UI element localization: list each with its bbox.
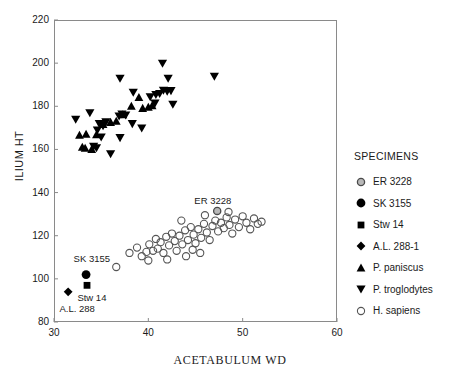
data-point xyxy=(200,220,207,227)
plot-data-layer xyxy=(54,20,337,322)
series-p-paniscus xyxy=(75,93,156,153)
legend-item-label: H. sapiens xyxy=(373,305,420,316)
annotation-label: ER 3228 xyxy=(194,195,231,206)
annotation-label: Stw 14 xyxy=(77,292,106,303)
legend-item-p-paniscus[interactable]: P. paniscus xyxy=(352,257,461,279)
filled-square-icon xyxy=(352,218,370,232)
data-point xyxy=(145,257,152,264)
filled-diamond-icon xyxy=(352,239,370,253)
data-point xyxy=(168,230,175,237)
legend-item-stw-14[interactable]: Stw 14 xyxy=(352,214,461,236)
legend-items: ER 3228SK 3155Stw 14A.L. 288-1P. paniscu… xyxy=(352,171,461,322)
x-tick-label: 30 xyxy=(39,327,69,338)
legend-marker-glyph xyxy=(357,263,366,271)
series-er-3228 xyxy=(214,207,221,214)
filled-down-triangle-icon xyxy=(352,282,370,296)
y-tick-label: 80 xyxy=(19,316,49,327)
legend-marker-glyph xyxy=(357,242,366,251)
data-point xyxy=(93,127,102,135)
data-point xyxy=(178,217,185,224)
data-point xyxy=(127,102,136,110)
x-tick-label: 60 xyxy=(322,327,352,338)
legend-item-label: Stw 14 xyxy=(373,219,404,230)
series-h-sapiens xyxy=(113,208,265,270)
data-point xyxy=(82,270,91,279)
data-point xyxy=(71,116,80,124)
data-point xyxy=(133,244,140,251)
filled-up-triangle-icon xyxy=(352,261,370,275)
legend-item-er-3228[interactable]: ER 3228 xyxy=(352,171,461,193)
data-point xyxy=(82,130,91,138)
data-point xyxy=(129,89,138,97)
legend-marker-glyph xyxy=(356,286,365,294)
legend-item-h-sapiens[interactable]: H. sapiens xyxy=(352,300,461,322)
data-point xyxy=(158,60,167,68)
legend: SPECIMENS ER 3228SK 3155Stw 14A.L. 288-1… xyxy=(352,150,461,322)
data-point xyxy=(247,226,254,233)
data-point xyxy=(198,234,205,241)
legend-item-sk-3155[interactable]: SK 3155 xyxy=(352,193,461,215)
series-sk-3155 xyxy=(82,270,91,279)
data-point xyxy=(106,150,115,158)
data-point xyxy=(197,249,204,256)
data-point xyxy=(229,230,236,237)
data-point xyxy=(182,253,189,260)
data-point xyxy=(173,247,180,254)
data-point xyxy=(189,246,196,253)
data-point xyxy=(201,212,208,219)
data-point xyxy=(115,75,124,83)
legend-marker-glyph xyxy=(357,199,366,208)
open-circle-icon xyxy=(352,304,370,318)
data-point xyxy=(138,253,145,260)
y-tick-label: 180 xyxy=(19,100,49,111)
data-point xyxy=(164,75,173,83)
data-point xyxy=(137,124,146,132)
x-tick-label: 50 xyxy=(228,327,258,338)
y-tick-label: 200 xyxy=(19,57,49,68)
data-point xyxy=(84,282,91,289)
y-tick-label: 220 xyxy=(19,14,49,25)
legend-item-a-l-288-1[interactable]: A.L. 288-1 xyxy=(352,236,461,258)
filled-circle-icon xyxy=(352,196,370,210)
data-point xyxy=(168,101,177,109)
data-point xyxy=(214,207,221,214)
data-point xyxy=(203,229,210,236)
legend-marker-glyph xyxy=(358,221,365,228)
data-point xyxy=(235,223,242,230)
x-tick-label: 40 xyxy=(133,327,163,338)
y-axis-title: ILIUM HT xyxy=(13,111,25,201)
data-point xyxy=(128,120,137,128)
y-tick-label: 100 xyxy=(19,273,49,284)
legend-item-p-troglodytes[interactable]: P. troglodytes xyxy=(352,279,461,301)
data-point xyxy=(113,263,120,270)
data-point xyxy=(210,73,219,81)
series-a-l-288-1 xyxy=(64,287,73,296)
data-point xyxy=(115,134,124,142)
legend-item-label: SK 3155 xyxy=(373,198,411,209)
x-axis-title: ACETABULUM WD xyxy=(120,353,340,368)
legend-marker-glyph xyxy=(357,178,364,185)
data-point xyxy=(206,236,213,243)
legend-marker-glyph xyxy=(357,307,364,314)
legend-item-label: A.L. 288-1 xyxy=(373,241,419,252)
data-point xyxy=(85,109,94,117)
data-point xyxy=(232,216,239,223)
legend-item-label: P. paniscus xyxy=(373,262,423,273)
data-point xyxy=(184,236,191,243)
annotation-label: A.L. 288 xyxy=(59,303,94,314)
shaded-circle-icon xyxy=(352,175,370,189)
legend-item-label: P. troglodytes xyxy=(373,284,433,295)
data-point xyxy=(187,223,194,230)
legend-title: SPECIMENS xyxy=(354,150,461,162)
data-point xyxy=(126,249,133,256)
legend-item-label: ER 3228 xyxy=(373,176,412,187)
data-point xyxy=(176,232,183,239)
series-stw-14 xyxy=(84,282,91,289)
data-point xyxy=(195,226,202,233)
data-point xyxy=(226,221,233,228)
data-point xyxy=(164,256,171,263)
scatter-plot-figure: 8010012014016018020022030405060 ER 3228S… xyxy=(0,0,461,376)
data-point xyxy=(135,93,144,101)
data-point xyxy=(143,248,150,255)
data-point xyxy=(64,287,73,296)
